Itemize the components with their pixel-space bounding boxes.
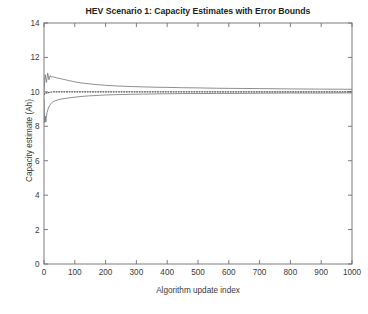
x-tick-label-1000: 1000 (343, 268, 362, 277)
chart-plot: 0100200300400500600700800900100002468101… (0, 0, 368, 314)
plot-frame (44, 23, 352, 264)
y-tick-label-4: 4 (35, 191, 40, 200)
series-line-upper-error-bound (44, 73, 352, 90)
y-tick-label-2: 2 (35, 226, 40, 235)
figure-container: HEV Scenario 1: Capacity Estimates with … (0, 0, 368, 314)
y-axis-label: Capacity estimate (Ah) (25, 66, 34, 216)
y-tick-label-0: 0 (35, 260, 40, 269)
x-tick-label-200: 200 (99, 268, 113, 277)
series-line-lower-error-bound (44, 93, 352, 123)
x-tick-label-800: 800 (284, 268, 298, 277)
x-tick-label-600: 600 (222, 268, 236, 277)
bottom-caption (14, 305, 354, 314)
y-tick-label-8: 8 (35, 122, 40, 131)
series-group (44, 73, 352, 123)
y-tick-label-12: 12 (30, 53, 40, 62)
x-tick-label-400: 400 (160, 268, 174, 277)
x-axis-label: Algorithm update index (44, 286, 352, 295)
x-tick-label-500: 500 (191, 268, 205, 277)
x-tick-label-0: 0 (42, 268, 47, 277)
y-tick-label-6: 6 (35, 157, 40, 166)
x-tick-label-100: 100 (68, 268, 82, 277)
x-tick-label-900: 900 (314, 268, 328, 277)
x-tick-label-700: 700 (253, 268, 267, 277)
y-tick-label-14: 14 (30, 19, 40, 28)
x-tick-label-300: 300 (130, 268, 144, 277)
